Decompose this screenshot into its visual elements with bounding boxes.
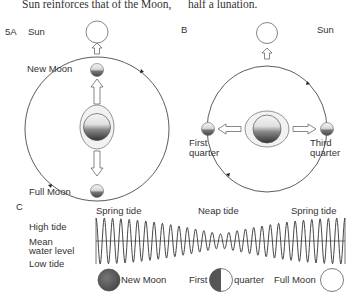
- new-moon-icon: [91, 64, 104, 77]
- panel-c: [96, 218, 345, 292]
- third-quarter-moon-icon: [321, 123, 334, 136]
- orbit-direction-icon: [48, 184, 52, 188]
- first-quarter-half-moon-icon: [210, 269, 233, 292]
- full-moon-white-icon: [321, 269, 344, 292]
- diagram-canvas: [0, 0, 355, 298]
- sun-icon: [257, 23, 278, 44]
- earth-icon: [84, 114, 111, 141]
- arrow-down-icon: [91, 151, 103, 176]
- panel-b: [202, 23, 334, 193]
- orbit-direction-icon: [140, 69, 144, 73]
- sun-icon: [86, 21, 108, 43]
- arrow-up-icon: [262, 48, 272, 59]
- arrow-up-icon: [91, 79, 103, 104]
- full-moon-icon: [91, 185, 104, 198]
- arrow-left-icon: [218, 124, 241, 134]
- first-quarter-moon-icon: [202, 123, 215, 136]
- panel-a: [25, 21, 169, 201]
- arrow-up-icon: [92, 43, 102, 54]
- new-moon-dark-icon: [98, 269, 120, 291]
- arrow-right-icon: [293, 124, 316, 134]
- earth-icon: [253, 115, 281, 143]
